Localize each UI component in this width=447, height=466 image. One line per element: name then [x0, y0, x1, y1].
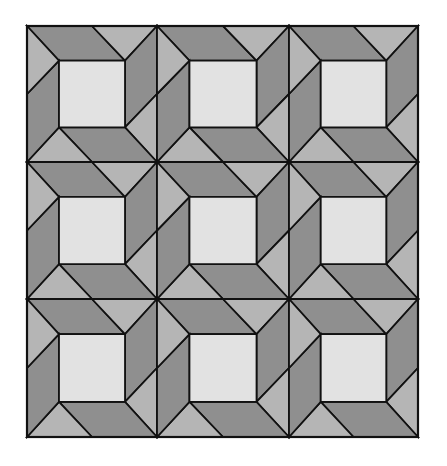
quilt-block-r3-c2 [157, 299, 289, 437]
center-square [321, 197, 387, 264]
quilt-block-r1-c1 [27, 26, 157, 162]
quilt-block-r1-c3 [289, 26, 418, 162]
center-square [321, 61, 387, 128]
quilt-block-r2-c1 [27, 162, 157, 299]
quilt-block-r3-c1 [27, 299, 157, 437]
quilt-svg [0, 0, 447, 466]
quilt-block-r1-c2 [157, 26, 289, 162]
center-square [321, 334, 387, 402]
center-square [59, 334, 125, 402]
center-square [189, 197, 256, 264]
center-square [189, 61, 256, 128]
center-square [189, 334, 256, 402]
quilt-block-r2-c2 [157, 162, 289, 299]
center-square [59, 61, 125, 128]
quilt-block-r2-c3 [289, 162, 418, 299]
center-square [59, 197, 125, 264]
quilt-block-r3-c3 [289, 299, 418, 437]
quilt-pattern-figure [0, 0, 447, 466]
